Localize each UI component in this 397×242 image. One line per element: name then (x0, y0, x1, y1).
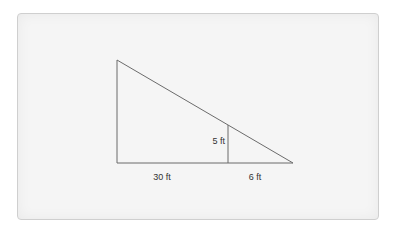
diagram-stage: 30 ft 6 ft 5 ft (0, 0, 397, 242)
base-right-label: 6 ft (249, 172, 262, 182)
inner-height-label: 5 ft (212, 136, 225, 146)
triangle-figure: 30 ft 6 ft 5 ft (0, 0, 397, 242)
base-left-label: 30 ft (153, 172, 171, 182)
outer-triangle (117, 60, 293, 163)
